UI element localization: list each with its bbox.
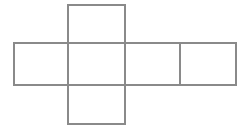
top-face bbox=[68, 5, 125, 43]
left-face bbox=[14, 43, 68, 85]
back-face bbox=[180, 43, 236, 85]
cube-net-svg bbox=[0, 0, 247, 131]
front-face bbox=[68, 43, 125, 85]
diagram-canvas bbox=[0, 0, 247, 131]
right-face bbox=[125, 43, 180, 85]
bottom-face bbox=[68, 85, 125, 124]
